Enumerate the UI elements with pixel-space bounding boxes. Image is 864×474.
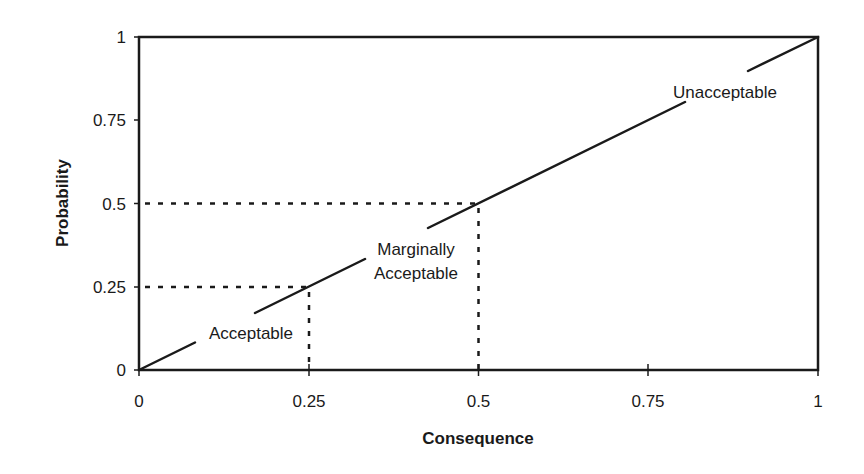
y-tick-label: 0.75 (93, 111, 126, 130)
x-tick-label: 0.5 (467, 392, 491, 411)
x-tick-label: 0.75 (631, 392, 664, 411)
x-tick-labels: 0 0.25 0.5 0.75 1 (134, 392, 822, 411)
unacceptable-label: Unacceptable (673, 83, 777, 102)
x-tick-label: 1 (813, 392, 822, 411)
x-axis-title: Consequence (422, 429, 533, 448)
x-tick-label: 0 (134, 392, 143, 411)
y-tick-labels: 1 0.75 0.5 0.25 0 (93, 28, 126, 380)
y-tick-label: 0.5 (102, 195, 126, 214)
x-tick-label: 0.25 (292, 392, 325, 411)
y-tick-label: 1 (117, 28, 126, 47)
marginally-acceptable-label-line1: Marginally (377, 240, 455, 259)
y-axis-title: Probability (53, 159, 72, 247)
y-tick-label: 0.25 (93, 278, 126, 297)
acceptable-label: Acceptable (209, 324, 293, 343)
y-tick-label: 0 (117, 361, 126, 380)
risk-chart: 1 0.75 0.5 0.25 0 0 0.25 0.5 0.75 1 Cons… (0, 0, 864, 474)
marginally-acceptable-label-line2: Acceptable (374, 264, 458, 283)
